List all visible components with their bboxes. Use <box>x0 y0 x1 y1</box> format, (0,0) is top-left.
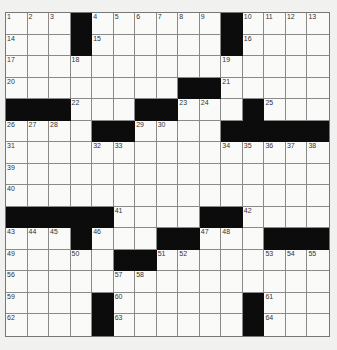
crossword-cell[interactable] <box>135 293 157 315</box>
crossword-cell[interactable]: 1 <box>6 13 28 35</box>
crossword-cell[interactable] <box>178 142 200 164</box>
crossword-cell[interactable]: 54 <box>286 250 308 272</box>
crossword-cell[interactable]: 40 <box>6 185 28 207</box>
crossword-cell[interactable]: 3 <box>49 13 71 35</box>
crossword-cell[interactable] <box>243 228 265 250</box>
crossword-cell[interactable] <box>135 228 157 250</box>
crossword-cell[interactable] <box>200 35 222 57</box>
crossword-cell[interactable]: 46 <box>92 228 114 250</box>
crossword-cell[interactable]: 64 <box>264 314 286 336</box>
crossword-cell[interactable]: 45 <box>49 228 71 250</box>
crossword-cell[interactable]: 57 <box>114 271 136 293</box>
crossword-cell[interactable] <box>28 250 50 272</box>
crossword-cell[interactable] <box>243 271 265 293</box>
crossword-cell[interactable] <box>49 142 71 164</box>
crossword-cell[interactable] <box>28 271 50 293</box>
crossword-cell[interactable] <box>71 164 93 186</box>
crossword-cell[interactable]: 51 <box>157 250 179 272</box>
crossword-cell[interactable] <box>200 271 222 293</box>
crossword-cell[interactable] <box>178 293 200 315</box>
crossword-cell[interactable] <box>114 228 136 250</box>
crossword-cell[interactable] <box>49 185 71 207</box>
crossword-cell[interactable]: 42 <box>243 207 265 229</box>
crossword-cell[interactable] <box>221 314 243 336</box>
crossword-cell[interactable]: 31 <box>6 142 28 164</box>
crossword-cell[interactable] <box>286 99 308 121</box>
crossword-cell[interactable] <box>178 314 200 336</box>
crossword-cell[interactable]: 11 <box>264 13 286 35</box>
crossword-cell[interactable] <box>71 293 93 315</box>
crossword-cell[interactable]: 34 <box>221 142 243 164</box>
crossword-cell[interactable] <box>264 207 286 229</box>
crossword-cell[interactable]: 63 <box>114 314 136 336</box>
crossword-cell[interactable] <box>114 99 136 121</box>
crossword-cell[interactable]: 62 <box>6 314 28 336</box>
crossword-cell[interactable]: 32 <box>92 142 114 164</box>
crossword-cell[interactable]: 26 <box>6 121 28 143</box>
crossword-cell[interactable]: 8 <box>178 13 200 35</box>
crossword-cell[interactable] <box>157 185 179 207</box>
crossword-cell[interactable]: 21 <box>221 78 243 100</box>
crossword-cell[interactable] <box>71 314 93 336</box>
crossword-cell[interactable] <box>28 35 50 57</box>
crossword-cell[interactable] <box>307 56 329 78</box>
crossword-cell[interactable]: 52 <box>178 250 200 272</box>
crossword-cell[interactable] <box>114 185 136 207</box>
crossword-cell[interactable] <box>200 250 222 272</box>
crossword-cell[interactable] <box>200 314 222 336</box>
crossword-cell[interactable] <box>49 314 71 336</box>
crossword-cell[interactable]: 28 <box>49 121 71 143</box>
crossword-cell[interactable] <box>92 99 114 121</box>
crossword-cell[interactable]: 15 <box>92 35 114 57</box>
crossword-cell[interactable]: 55 <box>307 250 329 272</box>
crossword-cell[interactable]: 60 <box>114 293 136 315</box>
crossword-cell[interactable]: 30 <box>157 121 179 143</box>
crossword-cell[interactable] <box>49 56 71 78</box>
crossword-cell[interactable] <box>28 185 50 207</box>
crossword-cell[interactable] <box>243 164 265 186</box>
crossword-cell[interactable] <box>286 78 308 100</box>
crossword-cell[interactable]: 49 <box>6 250 28 272</box>
crossword-cell[interactable]: 24 <box>200 99 222 121</box>
crossword-cell[interactable] <box>178 207 200 229</box>
crossword-cell[interactable] <box>28 164 50 186</box>
crossword-cell[interactable]: 43 <box>6 228 28 250</box>
crossword-cell[interactable] <box>71 185 93 207</box>
crossword-cell[interactable] <box>307 293 329 315</box>
crossword-cell[interactable] <box>286 35 308 57</box>
crossword-cell[interactable] <box>286 207 308 229</box>
crossword-cell[interactable] <box>200 56 222 78</box>
crossword-cell[interactable]: 35 <box>243 142 265 164</box>
crossword-cell[interactable] <box>307 78 329 100</box>
crossword-cell[interactable] <box>49 164 71 186</box>
crossword-cell[interactable] <box>49 271 71 293</box>
crossword-cell[interactable] <box>49 35 71 57</box>
crossword-cell[interactable] <box>114 35 136 57</box>
crossword-cell[interactable] <box>157 78 179 100</box>
crossword-cell[interactable]: 2 <box>28 13 50 35</box>
crossword-cell[interactable]: 10 <box>243 13 265 35</box>
crossword-cell[interactable] <box>135 56 157 78</box>
crossword-cell[interactable] <box>157 271 179 293</box>
crossword-cell[interactable]: 29 <box>135 121 157 143</box>
crossword-cell[interactable] <box>221 271 243 293</box>
crossword-cell[interactable] <box>307 314 329 336</box>
crossword-cell[interactable] <box>286 185 308 207</box>
crossword-cell[interactable]: 61 <box>264 293 286 315</box>
crossword-cell[interactable] <box>243 56 265 78</box>
crossword-cell[interactable] <box>114 56 136 78</box>
crossword-cell[interactable] <box>71 271 93 293</box>
crossword-cell[interactable] <box>114 78 136 100</box>
crossword-cell[interactable]: 53 <box>264 250 286 272</box>
crossword-cell[interactable]: 22 <box>71 99 93 121</box>
crossword-cell[interactable] <box>135 207 157 229</box>
crossword-cell[interactable] <box>135 78 157 100</box>
crossword-cell[interactable]: 58 <box>135 271 157 293</box>
crossword-cell[interactable]: 47 <box>200 228 222 250</box>
crossword-cell[interactable] <box>307 271 329 293</box>
crossword-cell[interactable]: 5 <box>114 13 136 35</box>
crossword-cell[interactable] <box>264 271 286 293</box>
crossword-cell[interactable] <box>71 78 93 100</box>
crossword-cell[interactable] <box>92 185 114 207</box>
crossword-cell[interactable] <box>157 314 179 336</box>
